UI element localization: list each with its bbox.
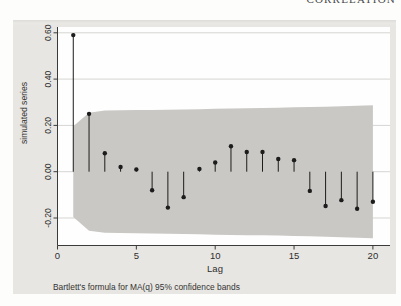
acf-point <box>103 151 107 155</box>
x-tick-label: 0 <box>55 250 60 261</box>
confidence-band <box>73 105 373 238</box>
y-tick-label: 0.20 <box>43 117 53 134</box>
x-axis-title: Lag <box>165 263 265 274</box>
y-tick-label: 0.00 <box>43 163 53 180</box>
y-tick-label: 0.40 <box>43 71 53 88</box>
y-axis-title: simulated series <box>19 61 31 165</box>
acf-point <box>87 112 91 116</box>
acf-point <box>166 205 170 209</box>
acf-point <box>371 200 375 204</box>
acf-point <box>292 158 296 162</box>
acf-point <box>197 167 201 171</box>
acf-point <box>118 165 122 169</box>
acf-point <box>134 167 138 171</box>
chart-caption: Bartlett's formula for MA(q) 95% confide… <box>53 282 240 292</box>
correlogram-figure: 0.600.400.200.00-0.2005101520 <box>13 20 396 294</box>
acf-point <box>276 157 280 161</box>
acf-point <box>71 33 75 37</box>
acf-point <box>213 160 217 164</box>
acf-point <box>355 207 359 211</box>
x-tick-label: 10 <box>210 250 221 261</box>
acf-point <box>229 144 233 148</box>
x-tick-label: 5 <box>134 250 139 261</box>
x-tick-label: 20 <box>368 250 379 261</box>
x-tick-label: 15 <box>289 250 300 261</box>
acf-point <box>245 150 249 154</box>
acf-point <box>181 195 185 199</box>
y-tick-label: 0.60 <box>43 24 53 41</box>
acf-point <box>308 189 312 193</box>
page-header-text: CORRELATION <box>306 0 396 5</box>
acf-point <box>150 188 154 192</box>
acf-point <box>339 198 343 202</box>
correlogram-canvas: 0.600.400.200.00-0.2005101520 <box>13 20 396 294</box>
acf-point <box>323 204 327 208</box>
y-tick-label: -0.20 <box>43 208 53 228</box>
acf-point <box>260 150 264 154</box>
